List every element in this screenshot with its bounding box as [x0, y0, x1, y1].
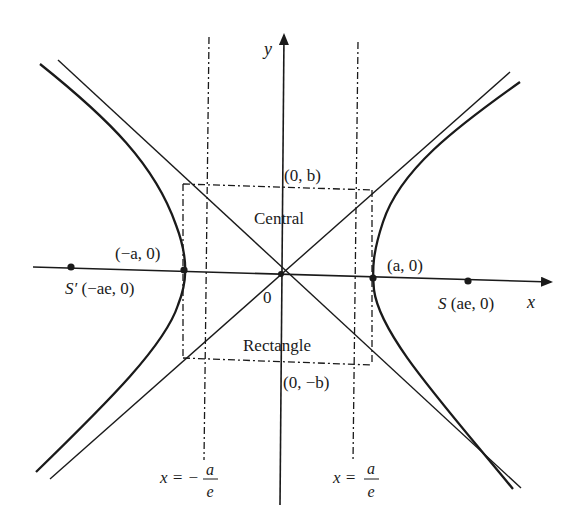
svg-text:x =: x =: [332, 468, 356, 487]
origin-label: 0: [263, 288, 272, 307]
bottom-point-label: (0, −b): [283, 373, 329, 392]
directrix-right: [353, 42, 358, 462]
vertex-right-label: (a, 0): [387, 256, 423, 275]
focus-right-coords: (ae, 0): [451, 294, 494, 313]
y-axis-label: y: [262, 39, 272, 59]
focus-left-coords: (−ae, 0): [81, 279, 134, 298]
axes: [33, 35, 551, 505]
x-axis-label: x: [526, 292, 535, 312]
origin-point: [278, 271, 284, 277]
focus-right-name: S: [438, 294, 447, 313]
directrix-left-equation: x = − a e: [159, 461, 218, 500]
vertex-left-label: (−a, 0): [115, 244, 160, 263]
central-rectangle-label-top: Central: [254, 209, 304, 228]
svg-text:e: e: [206, 483, 213, 500]
vertex-right-point: [369, 274, 376, 281]
directrix-right-equation: x = a e: [332, 460, 379, 500]
top-point-label: (0, b): [284, 166, 321, 185]
focus-left-label: S′ (−ae, 0): [65, 279, 134, 298]
central-rectangle-label-bottom: Rectangle: [243, 336, 311, 355]
directrix-left: [204, 37, 209, 460]
svg-text:a: a: [206, 461, 214, 478]
focus-left-point: [67, 263, 74, 270]
focus-left-name: S′: [65, 279, 78, 298]
svg-text:e: e: [367, 483, 374, 500]
y-axis: [280, 35, 284, 505]
vertex-left-point: [180, 266, 187, 273]
svg-text:x = −: x = −: [159, 468, 199, 487]
hyperbola-diagram: y x 0 (0, b) (0, −b) (−a, 0) (a, 0) S′ (…: [0, 0, 569, 515]
svg-text:a: a: [367, 460, 375, 477]
focus-right-point: [464, 277, 471, 284]
focus-right-label: S (ae, 0): [438, 294, 494, 313]
right-branch: [373, 82, 520, 489]
